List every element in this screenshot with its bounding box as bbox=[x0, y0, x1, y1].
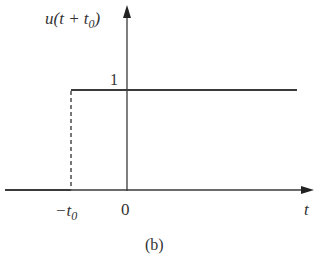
origin-label: 0 bbox=[121, 200, 130, 219]
y-axis-label: u(t + t0) bbox=[45, 9, 101, 31]
y-axis-arrow-icon bbox=[123, 5, 131, 18]
shift-label: −t0 bbox=[55, 201, 77, 223]
x-axis-label: t bbox=[304, 200, 310, 219]
step-level-label: 1 bbox=[110, 71, 118, 88]
x-axis-arrow-icon bbox=[301, 186, 314, 194]
step-function-diagram: u(t + t0) 1 −t0 0 t (b) bbox=[0, 0, 317, 260]
figure-caption: (b) bbox=[145, 236, 164, 254]
